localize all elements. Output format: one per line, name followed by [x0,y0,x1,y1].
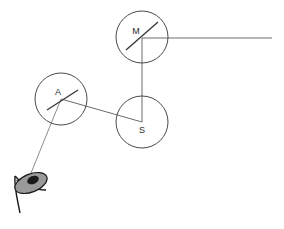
analyzer-label: A [55,87,61,97]
screen-circle[interactable] [116,96,168,148]
nodes-group: M A S [35,11,168,148]
analyzer-circle[interactable] [35,73,87,125]
node-mirror[interactable]: M [116,11,168,63]
eye-observer-group [12,168,50,213]
diagram-canvas: M A S [0,0,284,229]
mirror-label: M [132,26,140,36]
node-screen[interactable]: S [116,96,168,148]
mirror-circle[interactable] [116,11,168,63]
screen-label: S [139,125,145,135]
node-analyzer[interactable]: A [35,73,87,125]
optical-diagram: M A S [0,0,284,229]
